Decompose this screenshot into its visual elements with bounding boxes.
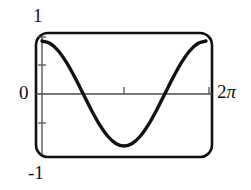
y-axis-max-label: 1	[33, 6, 43, 25]
x-axis-max-label: 2π	[217, 82, 236, 101]
y-axis-zero-label: 0	[19, 83, 29, 102]
plot-frame	[36, 33, 212, 157]
cosine-curve-figure: 1 0 -1 2π	[0, 0, 251, 190]
y-axis-min-label: -1	[28, 163, 44, 182]
pi-symbol: π	[227, 81, 237, 102]
x-axis-max-number: 2	[217, 81, 227, 102]
